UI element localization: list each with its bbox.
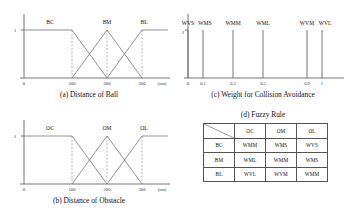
set-label-wvm: WVM (300, 20, 314, 26)
table-corner-cell (204, 124, 235, 139)
row-header-bl: BL (204, 167, 235, 182)
x-tick-label-0: 0 (187, 81, 190, 86)
column-header-om: OM (266, 124, 297, 139)
cell-bm-om: WMM (266, 153, 297, 168)
x-tick-label-0.1: 0.1 (200, 81, 206, 86)
set-label-wmm: WMM (225, 20, 240, 26)
set-label-wms: WMS (198, 20, 211, 26)
diagonal-divider-icon (204, 124, 234, 138)
y-tick-label-1: 1 (14, 28, 17, 33)
y-tick-label-1: 1 (182, 30, 185, 35)
chart-weight-for-collision-avoidance: 1 WVS WMS WMM WML WVM WVL 0 0.1 0.3 0.5 … (176, 4, 350, 104)
fuzzy-logic-figure: 1 BC BM BL 0 100 200 300 (cm) (a) Distan… (0, 0, 350, 216)
x-tick-label-100: 100 (69, 81, 77, 86)
table-row: BL WVL WVM WMM (204, 167, 328, 182)
y-tick-label-1: 1 (14, 134, 17, 139)
x-axis-unit: (cm) (158, 187, 167, 192)
cell-bc-oc: WMM (235, 138, 266, 153)
chart-distance-of-ball: 1 BC BM BL 0 100 200 300 (cm) (a) Distan… (2, 4, 176, 104)
weight-collision-avoidance-plot: 1 WVS WMS WMM WML WVM WVL 0 0.1 0.3 0.5 … (176, 4, 350, 90)
set-label-bm: BM (103, 19, 112, 25)
cell-bc-ol: WVS (297, 138, 328, 153)
x-axis-unit: (cm) (158, 81, 167, 86)
caption-panel-a: (a) Distance of Ball (2, 90, 176, 99)
mf-curve-bl (107, 30, 168, 78)
table-row: BM WML WMM WMS (204, 153, 328, 168)
cell-bl-ol: WMM (297, 167, 328, 182)
cell-bc-om: WMS (266, 138, 297, 153)
x-tick-label-0.3: 0.3 (230, 81, 236, 86)
column-header-oc: OC (235, 124, 266, 139)
x-tick-label-0: 0 (23, 187, 26, 192)
fuzzy-rule-table-panel: (d) Fuzzy Rule OC OM OL BC WMM WMS (176, 110, 350, 214)
x-tick-label-300: 300 (139, 81, 147, 86)
row-header-bm: BM (204, 153, 235, 168)
set-label-wvl: WVL (319, 20, 332, 26)
set-label-wml: WML (256, 20, 270, 26)
x-tick-label-0: 0 (23, 81, 26, 86)
x-tick-label-300: 300 (139, 187, 147, 192)
x-tick-label-200: 200 (104, 81, 112, 86)
mf-curve-oc (24, 136, 107, 184)
caption-panel-c: (c) Weight for Collision Avoidance (176, 90, 350, 99)
x-tick-label-1: 1 (321, 81, 324, 86)
x-tick-label-200: 200 (104, 187, 112, 192)
caption-panel-b: (b) Distance of Obstacle (2, 196, 176, 205)
cell-bm-ol: WMS (297, 153, 328, 168)
x-tick-label-0.5: 0.5 (260, 81, 266, 86)
x-tick-label-100: 100 (69, 187, 77, 192)
distance-of-ball-plot: 1 BC BM BL 0 100 200 300 (cm) (2, 4, 176, 90)
set-label-oc: OC (46, 125, 54, 131)
column-header-ol: OL (297, 124, 328, 139)
cell-bl-oc: WVL (235, 167, 266, 182)
cell-bl-om: WVM (266, 167, 297, 182)
chart-distance-of-obstacle: 1 OC OM OL 0 100 200 300 (cm) (b) Distan… (2, 110, 176, 210)
mf-curve-bc (24, 30, 107, 78)
distance-of-obstacle-plot: 1 OC OM OL 0 100 200 300 (cm) (2, 110, 176, 196)
table-header-row: OC OM OL (204, 124, 328, 139)
set-label-om: OM (102, 125, 111, 131)
set-label-ol: OL (140, 125, 148, 131)
mf-curve-ol (107, 136, 168, 184)
cell-bm-oc: WML (235, 153, 266, 168)
table-row: BC WMM WMS WVS (204, 138, 328, 153)
set-label-bl: BL (140, 19, 148, 25)
row-header-bc: BC (204, 138, 235, 153)
set-label-wvs: WVS (182, 20, 194, 26)
caption-panel-d: (d) Fuzzy Rule (176, 110, 350, 119)
x-tick-label-0.9: 0.9 (304, 81, 310, 86)
set-label-bc: BC (46, 19, 54, 25)
fuzzy-rule-table: OC OM OL BC WMM WMS WVS BM WML WMM WMS (203, 123, 328, 182)
